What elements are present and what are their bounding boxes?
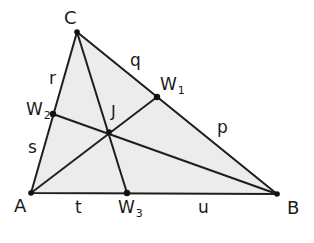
label-segment-r: r [49,70,56,87]
point-j [106,129,112,135]
point-c [74,29,80,35]
label-vertex-a: A [14,197,26,215]
label-segment-u: u [198,199,209,216]
point-a [28,190,34,196]
label-vertex-b: B [287,199,299,217]
label-segment-p: p [217,119,228,136]
label-vertex-c: C [64,9,77,27]
point-b [274,191,280,197]
label-w1-main: W [160,74,177,94]
label-segment-t: t [75,199,82,216]
label-point-j: J [111,104,116,120]
label-w2-subscript: 2 [44,109,51,122]
label-w3-main: W [118,197,135,217]
point-w1 [154,94,160,100]
label-w3: W3 [118,199,143,216]
label-segment-s: s [28,139,37,156]
label-w1: W1 [160,76,185,93]
point-w3 [124,190,130,196]
triangle-abc [31,32,277,194]
diagram-canvas: C A B J W1 W2 W3 q p r s t u [0,0,314,243]
label-w3-subscript: 3 [136,207,143,220]
label-w2-main: W [26,99,43,119]
label-segment-q: q [130,52,141,69]
label-w2: W2 [26,101,51,118]
label-w1-subscript: 1 [178,84,185,97]
